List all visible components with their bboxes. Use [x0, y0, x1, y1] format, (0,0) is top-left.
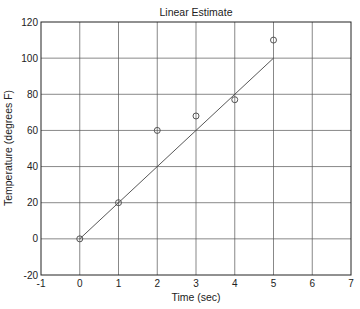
y-tick-label: 60: [27, 125, 39, 136]
grid-lines: [41, 22, 351, 275]
chart-title: Linear Estimate: [160, 6, 233, 18]
y-tick-label: 100: [21, 53, 38, 64]
y-axis-ticks: -20020406080100120: [21, 17, 38, 281]
y-tick-label: 80: [27, 89, 39, 100]
y-axis-label: Temperature (degrees F): [2, 90, 14, 206]
x-tick-label: 7: [348, 278, 354, 289]
y-tick-label: 20: [27, 197, 39, 208]
linear-estimate-chart: Linear Estimate -101234567 -200204060801…: [0, 0, 360, 309]
y-tick-label: 0: [32, 233, 38, 244]
fit-line: [80, 58, 274, 239]
x-tick-label: 1: [116, 278, 122, 289]
x-axis-label: Time (sec): [171, 291, 220, 303]
x-tick-label: 4: [232, 278, 238, 289]
x-axis-ticks: -101234567: [37, 278, 355, 289]
x-tick-label: 0: [77, 278, 83, 289]
x-tick-label: 2: [154, 278, 160, 289]
y-tick-label: 120: [21, 17, 38, 28]
x-tick-label: 3: [193, 278, 199, 289]
x-tick-label: 5: [271, 278, 277, 289]
data-series: [77, 37, 277, 242]
y-tick-label: -20: [24, 270, 39, 281]
x-tick-label: 6: [309, 278, 315, 289]
y-tick-label: 40: [27, 161, 39, 172]
